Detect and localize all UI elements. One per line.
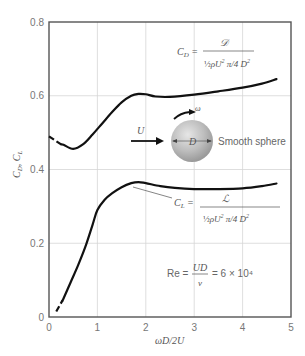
x-tick-label: 0 bbox=[46, 322, 52, 333]
sphere-illustration: U D ω Smooth sphere bbox=[131, 104, 286, 162]
sphere-label: Smooth sphere bbox=[218, 136, 286, 147]
y-axis-ticks: 00.20.40.60.8 bbox=[30, 17, 44, 323]
lift-drag-chart: 012345 00.20.40.60.8 ωD/2U CD, CL CD = 𝒟… bbox=[0, 0, 305, 356]
rotation-arrow-icon bbox=[174, 112, 190, 119]
curve-cl bbox=[63, 182, 277, 300]
x-tick-label: 4 bbox=[240, 322, 246, 333]
svg-text:ℒ: ℒ bbox=[222, 193, 230, 204]
flow-label: U bbox=[137, 125, 145, 136]
cl-formula: CL = ℒ ½ρU2 π/4 D2 bbox=[133, 187, 280, 224]
x-axis-label: ωD/2U bbox=[155, 335, 185, 346]
curve-cl-dashed bbox=[56, 300, 62, 311]
x-tick-label: 2 bbox=[143, 322, 149, 333]
svg-text:½ρU2 π/4 D2: ½ρU2 π/4 D2 bbox=[204, 58, 250, 69]
svg-text:UD: UD bbox=[193, 262, 208, 273]
svg-text:½ρU2 π/4 D2: ½ρU2 π/4 D2 bbox=[203, 213, 249, 224]
curve-cd-dashed bbox=[49, 136, 61, 144]
y-tick-label: 0.6 bbox=[30, 90, 44, 101]
svg-text:= 6 × 10⁴: = 6 × 10⁴ bbox=[212, 268, 253, 279]
rotation-label: ω bbox=[195, 104, 201, 113]
y-tick-label: 0.8 bbox=[30, 17, 44, 28]
y-tick-label: 0 bbox=[38, 312, 44, 323]
svg-text:Re =: Re = bbox=[167, 268, 189, 279]
y-tick-label: 0.4 bbox=[30, 164, 44, 175]
x-tick-label: 1 bbox=[95, 322, 101, 333]
svg-text:𝒟: 𝒟 bbox=[220, 37, 230, 48]
svg-text:CD, CL: CD, CL bbox=[11, 151, 24, 178]
y-tick-label: 0.2 bbox=[30, 238, 44, 249]
svg-text:CL =: CL = bbox=[174, 197, 194, 210]
reynolds-annotation: Re = UD ν = 6 × 10⁴ bbox=[167, 262, 253, 288]
svg-text:ν: ν bbox=[198, 278, 202, 288]
svg-text:CD =: CD = bbox=[177, 46, 198, 59]
x-tick-label: 3 bbox=[191, 322, 197, 333]
y-axis-label: CD, CL bbox=[11, 151, 24, 178]
flow-arrow-icon bbox=[156, 137, 164, 145]
x-axis-ticks: 012345 bbox=[46, 322, 294, 333]
x-tick-label: 5 bbox=[288, 322, 294, 333]
diameter-label: D bbox=[188, 136, 197, 147]
